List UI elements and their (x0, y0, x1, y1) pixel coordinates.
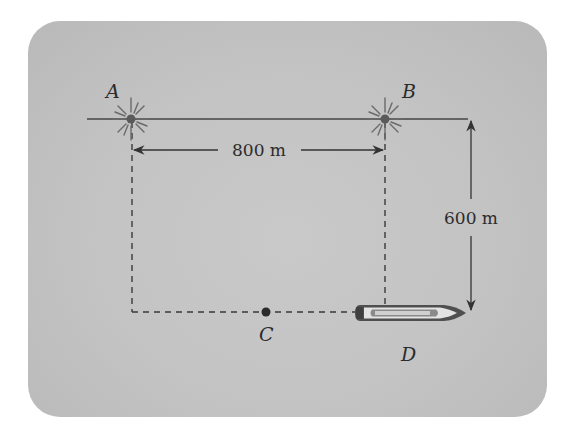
boat-icon (355, 305, 466, 321)
point-label-d: D (400, 343, 416, 365)
point-c-dot (262, 308, 271, 317)
light-beacon-icon-a (113, 98, 149, 140)
light-beacon-icon-b (367, 98, 403, 140)
dimension-label-vertical: 600 m (444, 208, 498, 228)
point-label-b: B (401, 80, 416, 102)
point-label-c: C (259, 323, 274, 345)
dimension-label-horizontal: 800 m (232, 140, 286, 160)
diagram-canvas: 800 m 600 m A B (0, 0, 574, 436)
point-label-a: A (104, 80, 120, 102)
